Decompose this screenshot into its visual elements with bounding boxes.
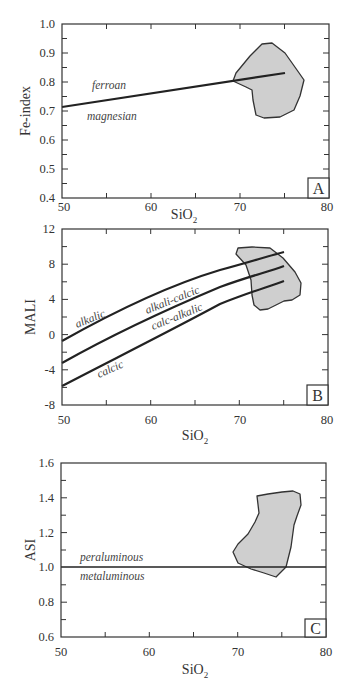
svg-text:80: 80 (321, 413, 334, 427)
svg-text:8: 8 (49, 257, 55, 271)
panel-label-c: C (310, 620, 321, 637)
svg-text:0: 0 (49, 328, 55, 342)
svg-text:4: 4 (49, 292, 56, 306)
x-axis-label-b: SiO2 (182, 428, 208, 446)
svg-text:1.4: 1.4 (38, 491, 54, 505)
x-axis-label-a: SiO2 (171, 207, 197, 225)
svg-text:60: 60 (145, 413, 158, 427)
svg-text:0.7: 0.7 (39, 104, 55, 118)
svg-text:70: 70 (232, 645, 245, 659)
y-axis-label-a: Fe-index (18, 86, 33, 136)
panel-label-a: A (313, 180, 325, 197)
svg-text:0.8: 0.8 (39, 75, 55, 89)
panel-label-b: B (312, 387, 323, 404)
svg-text:1.6: 1.6 (38, 456, 54, 470)
y-tick-labels-c: 1.6 1.4 1.2 1.0 0.8 0.6 (38, 456, 54, 644)
svg-text:0.9: 0.9 (39, 46, 55, 60)
figure: 1.0 0.9 0.8 0.7 0.6 0.5 0.4 50 60 70 80 … (0, 0, 354, 687)
y-tick-labels-b: 12 8 4 0 -4 -8 (43, 222, 56, 412)
svg-text:1.0: 1.0 (39, 17, 55, 31)
region-label-magnesian: magnesian (87, 110, 137, 123)
svg-text:-4: -4 (45, 363, 56, 377)
svg-text:12: 12 (43, 222, 56, 236)
svg-text:50: 50 (58, 413, 71, 427)
sample-field-a (233, 43, 304, 118)
svg-text:0.5: 0.5 (39, 162, 55, 176)
y-axis-label-c: ASI (23, 538, 38, 561)
panel-a: 1.0 0.9 0.8 0.7 0.6 0.5 0.4 50 60 70 80 … (18, 17, 333, 225)
svg-text:70: 70 (234, 200, 247, 214)
svg-text:0.6: 0.6 (38, 630, 54, 644)
svg-text:0.6: 0.6 (39, 133, 55, 147)
sample-field-c (233, 491, 301, 577)
panel-c: 1.6 1.4 1.2 1.0 0.8 0.6 50 60 70 80 SiO2… (23, 456, 332, 680)
y-axis-label-b: MALI (23, 299, 38, 335)
region-label-peraluminous: peraluminous (79, 551, 144, 564)
svg-text:1.0: 1.0 (38, 560, 54, 574)
region-label-metaluminous: metaluminous (80, 570, 145, 582)
region-label-ferroan: ferroan (92, 79, 126, 92)
svg-text:-8: -8 (45, 398, 55, 412)
x-tick-labels-a: 50 60 70 80 (58, 200, 334, 214)
x-ticks-c (105, 632, 282, 637)
x-tick-labels-b: 50 60 70 80 (58, 413, 334, 427)
svg-text:80: 80 (320, 645, 333, 659)
svg-text:0.4: 0.4 (39, 191, 55, 205)
svg-text:60: 60 (145, 200, 158, 214)
svg-text:70: 70 (234, 413, 247, 427)
svg-text:80: 80 (321, 200, 334, 214)
svg-text:60: 60 (143, 645, 156, 659)
x-axis-label-c: SiO2 (182, 662, 208, 680)
svg-text:50: 50 (55, 645, 68, 659)
panel-b: 12 8 4 0 -4 -8 50 60 70 80 SiO2 MALI alk… (23, 222, 333, 446)
svg-text:0.8: 0.8 (38, 595, 54, 609)
svg-text:50: 50 (58, 200, 71, 214)
svg-text:1.2: 1.2 (38, 526, 54, 540)
x-tick-labels-c: 50 60 70 80 (55, 645, 333, 659)
y-tick-labels-a: 1.0 0.9 0.8 0.7 0.6 0.5 0.4 (39, 17, 55, 205)
